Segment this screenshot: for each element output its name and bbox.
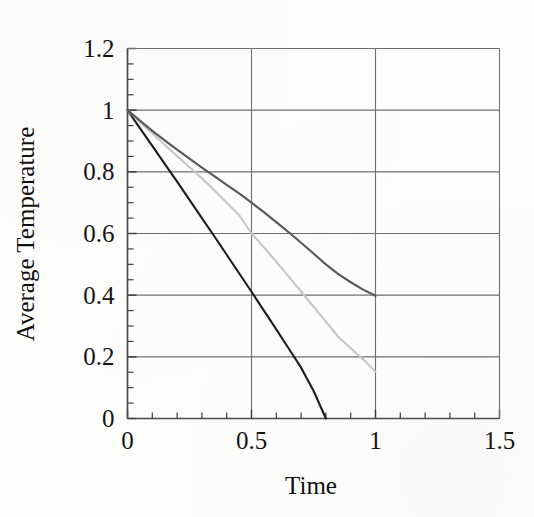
y-tick-label: 1.2 [83, 35, 114, 62]
x-axis-tick-labels: 00.511.5 [121, 427, 515, 454]
y-tick-label: 0.2 [83, 343, 114, 370]
y-axis-tick-labels: 00.20.40.60.811.2 [83, 35, 115, 432]
figure-container: 00.511.5 00.20.40.60.811.2 Time Average … [0, 0, 534, 517]
y-tick-label: 0.6 [83, 220, 114, 247]
line-chart: 00.511.5 00.20.40.60.811.2 Time Average … [0, 0, 534, 517]
x-tick-label: 0 [121, 427, 134, 454]
y-tick-label: 0.8 [83, 158, 114, 185]
x-tick-label: 1.5 [484, 427, 515, 454]
gridlines [128, 49, 500, 419]
y-tick-label: 0.4 [83, 282, 115, 309]
y-tick-label: 1 [102, 97, 115, 124]
y-tick-label: 0 [102, 405, 115, 432]
x-tick-label: 1 [369, 427, 382, 454]
series-line-curve-steep [128, 110, 326, 418]
x-tick-label: 0.5 [236, 427, 267, 454]
y-axis-title: Average Temperature [12, 127, 39, 342]
minor-ticks [128, 64, 475, 419]
x-axis-title: Time [285, 472, 337, 499]
